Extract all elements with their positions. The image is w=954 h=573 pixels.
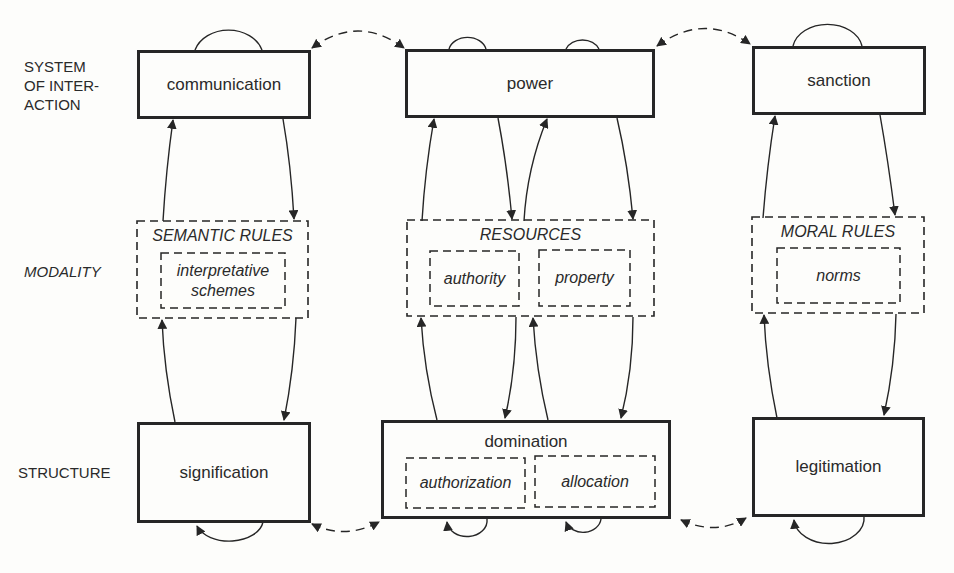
dashed-arrow-signification-domination bbox=[312, 522, 379, 532]
signification-box: signification bbox=[137, 422, 311, 523]
arrow-semantic-to-signification bbox=[284, 318, 296, 420]
self-loop-communication bbox=[195, 30, 262, 50]
dashed-arrow-power-sanction bbox=[657, 28, 750, 46]
arrow-resources-to-domination-mid bbox=[505, 317, 516, 418]
interpretative-schemes-box: interpretative schemes bbox=[161, 253, 285, 308]
semantic-rules-title: SEMANTIC RULES bbox=[137, 227, 308, 245]
self-loop-signification bbox=[197, 522, 263, 541]
legitimation-box: legitimation bbox=[752, 417, 925, 517]
allocation-box: allocation bbox=[535, 456, 655, 507]
arrow-domination-left-to-resources bbox=[421, 318, 437, 420]
domination-title: domination bbox=[384, 432, 668, 452]
authorization-box: authorization bbox=[406, 458, 525, 508]
arrow-communication-to-semantic bbox=[283, 119, 294, 219]
arrow-resources-left-to-power bbox=[422, 119, 434, 221]
self-loop-power-left bbox=[449, 37, 486, 49]
arrow-power-to-resources-right bbox=[617, 118, 633, 219]
arrow-sanction-to-moral bbox=[880, 115, 895, 215]
arrow-domination-mid-to-resources bbox=[533, 318, 548, 420]
self-loop-allocation bbox=[566, 519, 601, 532]
arrow-signification-to-semantic bbox=[162, 320, 175, 422]
interpretative-schemes-line: interpretative bbox=[177, 261, 270, 281]
arrow-moral-to-sanction bbox=[763, 116, 775, 218]
arrow-resources-to-domination-right bbox=[621, 317, 633, 418]
arrow-legitimation-to-moral bbox=[764, 315, 777, 418]
property-box: property bbox=[539, 250, 630, 306]
sanction-box: sanction bbox=[752, 46, 926, 115]
self-loop-authorization bbox=[447, 519, 487, 537]
power-box: power bbox=[405, 49, 655, 118]
self-loop-legitimation bbox=[794, 516, 864, 544]
dashed-arrow-communication-power bbox=[312, 31, 404, 48]
dashed-arrow-domination-legitimation bbox=[681, 518, 746, 528]
self-loop-sanction bbox=[793, 24, 862, 46]
moral-rules-title: MORAL RULES bbox=[752, 223, 924, 241]
interpretative-schemes-line: schemes bbox=[191, 281, 255, 301]
resources-title: RESOURCES bbox=[407, 226, 654, 244]
norms-box: norms bbox=[777, 248, 900, 303]
authority-box: authority bbox=[430, 251, 519, 306]
communication-box: communication bbox=[137, 50, 311, 119]
arrow-power-to-resources-mid bbox=[498, 118, 512, 219]
arrow-moral-to-legitimation bbox=[884, 314, 896, 415]
arrow-semantic-to-communication bbox=[163, 120, 173, 221]
self-loop-power-right bbox=[566, 40, 599, 49]
arrow-resources-mid-to-power bbox=[524, 119, 547, 221]
